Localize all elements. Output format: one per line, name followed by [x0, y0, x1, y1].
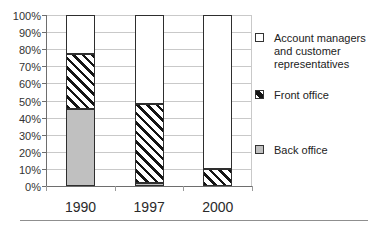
y-axis-tick-mark-30	[42, 135, 46, 136]
y-axis-tick-mark-100	[42, 15, 46, 16]
plot-area	[46, 15, 252, 186]
bar-segment-1990-back-office	[66, 109, 95, 186]
y-axis-tick-label-100: 100%	[0, 10, 41, 22]
x-axis-tick-mark-3	[252, 186, 253, 191]
x-axis-category-label-2000: 2000	[183, 199, 252, 215]
bar-segment-2000-front-office	[203, 169, 232, 186]
y-axis-tick-mark-90	[42, 32, 46, 33]
y-axis-tick-label-90: 90%	[0, 27, 41, 39]
x-axis-tick-mark-0	[46, 186, 47, 191]
y-axis-tick-mark-50	[42, 101, 46, 102]
bottom-divider	[20, 220, 368, 221]
legend-label-front-office: Front office	[274, 89, 378, 102]
bar-segment-1997-account-managers-and-customer-representatives	[135, 15, 164, 104]
x-axis-tick-mark-1	[115, 186, 116, 191]
legend-marker-front-office-hatch-square-icon	[255, 90, 264, 99]
x-axis-category-label-1997: 1997	[115, 199, 184, 215]
legend-item-back-office: Back office	[255, 144, 378, 157]
x-axis-tick-mark-2	[183, 186, 184, 191]
y-axis-tick-label-0: 0%	[0, 181, 41, 193]
y-axis-tick-label-10: 10%	[0, 164, 41, 176]
bar-segment-2000-account-managers-and-customer-representatives	[203, 15, 232, 169]
y-axis-tick-label-70: 70%	[0, 61, 41, 73]
bar-segment-1990-account-managers-and-customer-representatives	[66, 15, 95, 54]
legend-item-front-office: Front office	[255, 89, 378, 102]
y-axis-tick-label-60: 60%	[0, 78, 41, 90]
y-axis-tick-mark-80	[42, 49, 46, 50]
y-axis-tick-label-80: 80%	[0, 44, 41, 56]
bar-segment-1990-front-office	[66, 54, 95, 109]
legend-marker-account-managers-white-square-icon	[255, 33, 264, 42]
stacked-bar-chart-figure: Account managers and customer representa…	[0, 0, 385, 225]
y-axis-line	[46, 15, 47, 187]
y-axis-tick-label-40: 40%	[0, 113, 41, 125]
y-axis-tick-mark-40	[42, 118, 46, 119]
bar-segment-1997-front-office	[135, 104, 164, 183]
legend-item-account-managers: Account managers and customer representa…	[255, 32, 378, 71]
y-axis-tick-mark-10	[42, 169, 46, 170]
y-axis-tick-label-20: 20%	[0, 147, 41, 159]
y-axis-tick-label-50: 50%	[0, 96, 41, 108]
x-axis-line	[46, 186, 253, 187]
legend-marker-back-office-gray-square-icon	[255, 145, 264, 154]
y-axis-tick-mark-60	[42, 83, 46, 84]
y-axis-tick-label-30: 30%	[0, 130, 41, 142]
y-axis-tick-mark-70	[42, 66, 46, 67]
y-axis-tick-mark-20	[42, 152, 46, 153]
plot-right-border	[251, 15, 252, 186]
x-axis-category-label-1990: 1990	[46, 199, 115, 215]
legend: Account managers and customer representa…	[255, 0, 383, 190]
legend-label-back-office: Back office	[274, 144, 378, 157]
legend-label-account-managers: Account managers and customer representa…	[274, 32, 378, 71]
